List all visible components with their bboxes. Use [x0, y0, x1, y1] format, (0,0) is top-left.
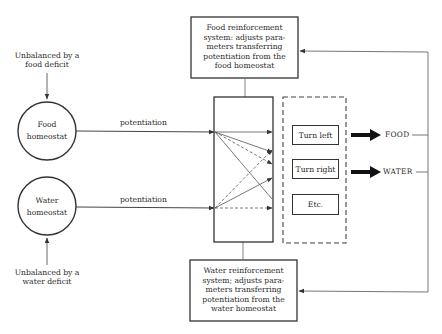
food-reinforcement-line-5: food homeostat — [193, 61, 296, 71]
food-homeostat-line-2: homeostat — [18, 131, 76, 143]
food-reinforcement-line-1: Food reinforcement — [193, 23, 296, 33]
water-homeostat-line-1: Water — [18, 195, 76, 207]
water-homeostat-label: Water homeostat — [18, 195, 76, 219]
response-turn-left: Turn left — [292, 125, 339, 145]
water-potentiation-line — [76, 207, 214, 208]
food-deficit-label: Unbalanced by a food deficit — [5, 51, 89, 70]
food-potentiation-line — [76, 131, 214, 132]
response-etc: Etc. — [292, 194, 339, 215]
food-potentiation-label: potentiation — [120, 118, 167, 127]
food-reinforcement-line-2: system: adjusts para- — [193, 33, 296, 43]
food-reinforcement-line-3: meters transferring — [193, 42, 296, 52]
water-reinforcement-line-4: potentiation from the — [192, 295, 295, 305]
food-reinforcement-line-4: potentiation from the — [193, 52, 296, 62]
food-deficit-line-1: Unbalanced by a — [5, 51, 89, 60]
food-reinforcement-text: Food reinforcement system: adjusts para-… — [193, 23, 296, 71]
water-output-arrow — [351, 166, 381, 178]
food-output-arrow — [351, 129, 381, 141]
water-deficit-line-1: Unbalanced by a — [5, 268, 89, 277]
food-output-label: FOOD — [385, 130, 409, 139]
water-reinforcement-text: Water reinforcement system; adjusts para… — [192, 266, 295, 314]
water-deficit-line-2: water deficit — [5, 277, 89, 286]
water-reinforcement-line-2: system; adjusts para- — [192, 276, 295, 286]
water-deficit-label: Unbalanced by a water deficit — [5, 268, 89, 287]
water-homeostat-line-2: homeostat — [18, 207, 76, 219]
water-reinforcement-line-1: Water reinforcement — [192, 266, 295, 276]
food-deficit-line-2: food deficit — [5, 60, 89, 69]
water-reinforcement-line-3: meters transferring — [192, 285, 295, 295]
water-potentiation-label: potentiation — [120, 195, 167, 204]
switching-matrix-box — [214, 97, 273, 242]
food-homeostat-line-1: Food — [18, 119, 76, 131]
water-output-label: WATER — [383, 167, 413, 176]
food-homeostat-label: Food homeostat — [18, 119, 76, 143]
response-turn-right: Turn right — [292, 159, 339, 179]
water-reinforcement-line-5: water homeostat — [192, 304, 295, 314]
